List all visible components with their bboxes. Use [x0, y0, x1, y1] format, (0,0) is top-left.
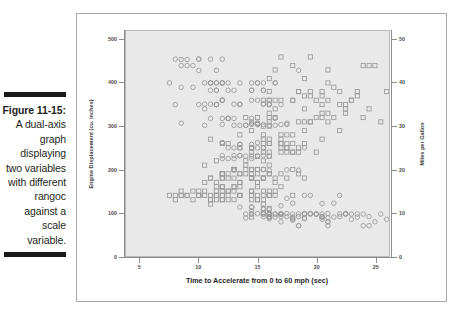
scatter-chart: 010020030040050001020304050510152025 Eng…: [77, 14, 446, 301]
y-axis-left-tick: [119, 257, 124, 258]
y-axis-left-title: Engine Displacement (cu. inches): [88, 99, 94, 188]
y-axis-right-tick-label: 20: [399, 167, 417, 173]
y-axis-right-tick: [392, 170, 397, 171]
y-axis-left-tick: [119, 213, 124, 214]
y-axis-right-tick: [392, 257, 397, 258]
y-axis-right-tick-label: 30: [399, 123, 417, 129]
caption-rule-bottom: [4, 252, 66, 257]
caption-text: Figure 11-15: A dual-axis graph displayi…: [2, 97, 68, 252]
y-axis-left-spine: [124, 30, 125, 258]
x-axis-tick-label: 5: [129, 264, 149, 270]
y-axis-right-tick: [392, 82, 397, 83]
x-axis-tick: [139, 258, 140, 263]
y-axis-left-tick: [119, 170, 124, 171]
y-axis-left-tick: [119, 39, 124, 40]
y-axis-left-tick-label: 400: [99, 79, 117, 85]
y-axis-right-spine: [391, 30, 392, 258]
x-axis-tick: [317, 258, 318, 263]
y-axis-right-title: Miles per Gallon: [419, 122, 425, 165]
y-axis-right-tick: [392, 213, 397, 214]
figure-caption-block: Figure 11-15: A dual-axis graph displayi…: [0, 92, 68, 257]
y-axis-right-tick: [392, 126, 397, 127]
x-axis-tick-label: 25: [366, 264, 386, 270]
plot-panel: [125, 30, 390, 257]
y-axis-right-tick: [392, 39, 397, 40]
y-axis-right-tick-label: 50: [399, 36, 417, 42]
x-axis-tick: [198, 258, 199, 263]
y-axis-left-tick: [119, 126, 124, 127]
x-axis-tick: [258, 258, 259, 263]
figure-frame: 010020030040050001020304050510152025 Eng…: [76, 13, 447, 302]
data-points-layer: [126, 31, 389, 256]
y-axis-left-tick-label: 100: [99, 210, 117, 216]
y-axis-left-tick: [119, 82, 124, 83]
x-axis-tick-label: 10: [188, 264, 208, 270]
x-axis-tick-label: 20: [307, 264, 327, 270]
y-axis-left-tick-label: 500: [99, 36, 117, 42]
figure-number-label: Figure 11-15:: [2, 103, 66, 117]
x-axis-tick: [376, 258, 377, 263]
x-axis-tick-label: 15: [248, 264, 268, 270]
figure-caption-body: A dual-axis graph displaying two variabl…: [6, 118, 66, 245]
y-axis-left-tick-label: 0: [99, 254, 117, 260]
y-axis-left-tick-label: 300: [99, 123, 117, 129]
y-axis-right-tick-label: 10: [399, 210, 417, 216]
y-axis-left-tick-label: 200: [99, 167, 117, 173]
y-axis-right-tick-label: 0: [399, 254, 417, 260]
x-axis-title: Time to Accelerate from 0 to 60 mph (sec…: [186, 276, 328, 285]
y-axis-right-tick-label: 40: [399, 79, 417, 85]
